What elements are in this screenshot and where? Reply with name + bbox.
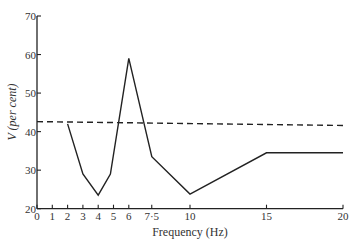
- y-tick-label: 50: [25, 87, 37, 99]
- series-line-reference: [37, 122, 343, 126]
- y-tick-label: 60: [25, 49, 37, 61]
- x-tick-label: 7·5: [144, 210, 159, 222]
- x-tick-label: 15: [261, 210, 273, 222]
- x-tick-label: 4: [95, 210, 101, 222]
- x-tick-label: 3: [80, 210, 86, 222]
- ticks: 01234567·5101520203040506070: [25, 10, 349, 222]
- y-tick-label: 20: [25, 203, 37, 215]
- x-tick-label: 2: [65, 210, 71, 222]
- y-axis-title: V (per cent): [5, 83, 19, 140]
- y-tick-label: 70: [25, 10, 37, 22]
- x-tick-label: 6: [126, 210, 132, 222]
- x-tick-label: 10: [185, 210, 197, 222]
- y-tick-label: 40: [25, 126, 37, 138]
- chart: 01234567·5101520203040506070 Frequency (…: [0, 0, 354, 245]
- x-tick-label: 5: [111, 210, 117, 222]
- series-line-V: [68, 58, 343, 195]
- series-group: [37, 58, 343, 195]
- x-tick-label: 1: [50, 210, 56, 222]
- axes: [37, 16, 343, 209]
- y-tick-label: 30: [25, 164, 37, 176]
- x-axis-title: Frequency (Hz): [152, 225, 228, 239]
- x-tick-label: 20: [338, 210, 350, 222]
